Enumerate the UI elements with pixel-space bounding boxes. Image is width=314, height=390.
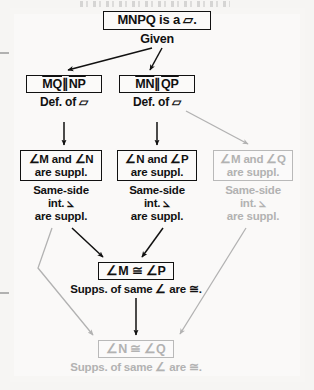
reason-given: Given bbox=[103, 32, 211, 46]
reason-angle-n-and-p-supplementary: Same-side int. ⦣ are suppl. bbox=[111, 184, 203, 223]
reason-angle-m-and-q-supplementary: Same-side int. ⦣ are suppl. bbox=[207, 184, 299, 223]
reason-mq-parallel-np: Def. of ▱ bbox=[20, 96, 108, 110]
page-edge-artifact bbox=[0, 292, 9, 294]
node-angle-m-and-n-supplementary: ∠M and ∠N are suppl. bbox=[20, 150, 102, 181]
node-angle-m-congruent-angle-p: ∠M ≅ ∠P bbox=[98, 262, 174, 280]
node-angle-m-and-q-supplementary: ∠M and ∠Q are suppl. bbox=[213, 150, 293, 181]
node-mq-parallel-np: MQ ∥ NP bbox=[26, 75, 102, 93]
page-edge-artifact bbox=[0, 52, 9, 54]
node-angle-n-congruent-angle-q: ∠N ≅ ∠Q bbox=[98, 340, 174, 358]
node-mn-parallel-qp: MN ∥ QP bbox=[119, 75, 195, 93]
reason-angle-m-and-n-supplementary: Same-side int. ⦣ are suppl. bbox=[14, 184, 108, 223]
reason-mn-parallel-qp: Def. of ▱ bbox=[113, 96, 201, 110]
node-angle-n-and-p-supplementary: ∠N and ∠P are suppl. bbox=[117, 150, 197, 181]
reason-angle-n-congruent-angle-q: Supps. of same ∠ are ≅. bbox=[50, 361, 222, 374]
page-header-smudge bbox=[80, 1, 230, 7]
scanned-page: MNPQ is a ▱. Given MQ ∥ NP Def. of ▱ MN … bbox=[0, 0, 314, 390]
node-given: MNPQ is a ▱. bbox=[103, 11, 211, 30]
reason-angle-m-congruent-angle-p: Supps. of same ∠ are ≅. bbox=[50, 283, 222, 296]
